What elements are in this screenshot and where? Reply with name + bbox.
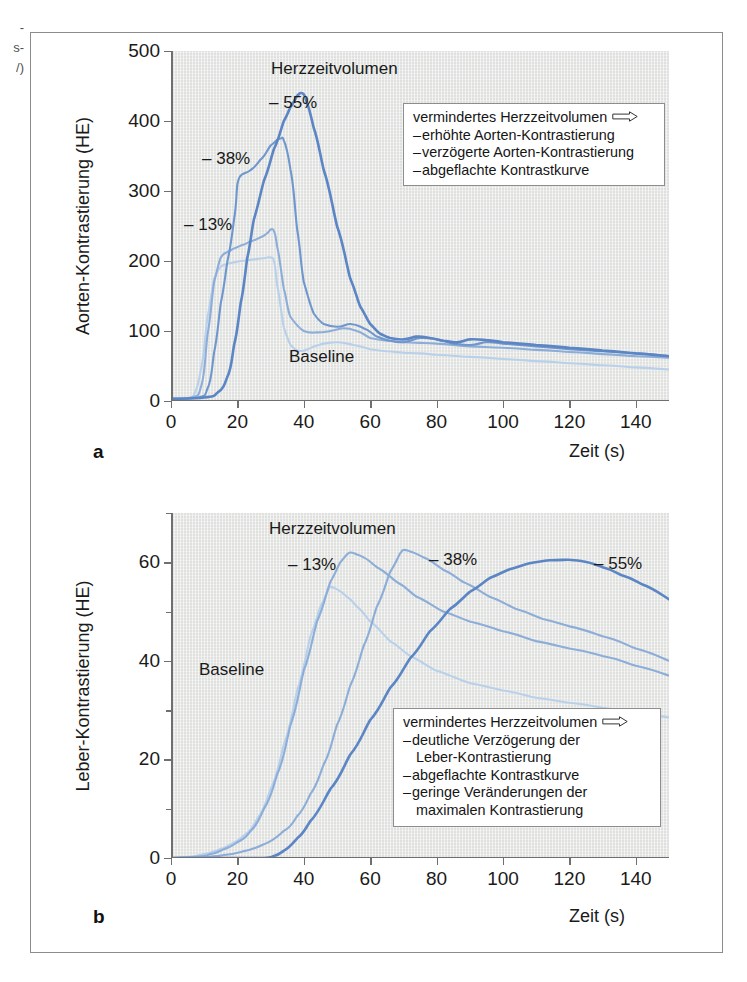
y-tick [164,331,171,332]
panel-letter-b: b [93,906,105,928]
legend-item-a-1: – erhöhte Aorten-Kontrastierung [413,127,655,145]
legend-heading-a: vermindertes Herzzeitvolumen [413,109,655,127]
plot-area-b: 0204060020406080100120140 Herzzeitvolume… [171,513,669,858]
y-tick-minor [166,809,171,810]
curve-label-a-13: – 13% [184,215,232,235]
x-tick [437,401,438,408]
baseline-label-a: Baseline [289,347,354,367]
panel-b: Leber-Kontrastierung (HE) 02040600204060… [31,488,724,954]
x-tick [370,858,371,865]
y-tick [164,661,171,662]
legend-heading-text-a: vermindertes Herzzeitvolumen [413,109,607,127]
x-tick-label: 120 [554,411,586,433]
y-tick [164,51,171,52]
x-tick [237,401,238,408]
x-axis-line-b [171,857,669,859]
y-tick [164,562,171,563]
group-label-b: Herzzeitvolumen [269,519,396,539]
y-axis-line-b [171,513,173,858]
y-tick-minor [166,612,171,613]
y-tick [164,121,171,122]
x-tick-label: 0 [166,411,177,433]
y-tick [164,191,171,192]
x-tick [503,401,504,408]
x-tick-label: 40 [293,411,314,433]
legend-item-b-4: – geringe Veränderungen der [403,784,651,802]
x-tick-label: 140 [620,868,652,890]
legend-heading-b: vermindertes Herzzeitvolumen [403,714,651,732]
x-tick [370,401,371,408]
y-tick-label: 200 [128,250,160,272]
x-tick [237,858,238,865]
legend-item-a-2: – verzögerte Aorten-Kontrastierung [413,144,655,162]
x-axis-title-b: Zeit (s) [569,906,625,927]
margin-text-line-3: /) [0,58,24,78]
curve-label-b-13: – 13% [288,555,336,575]
plot-area-a: 0100200300400500020406080100120140 Herzz… [171,51,669,401]
baseline-label-b: Baseline [199,660,264,680]
legend-item-text: erhöhte Aorten-Kontrastierung [422,127,615,145]
x-tick [636,858,637,865]
y-tick-label: 400 [128,110,160,132]
legend-item-text: verzögerte Aorten-Kontrastierung [422,144,634,162]
legend-dash-icon: – [413,127,422,145]
legend-item-b-3: – abgeflachte Kontrastkurve [403,767,651,785]
x-tick [304,858,305,865]
right-arrow-icon [602,714,628,732]
legend-dash-icon: – [403,767,412,785]
x-tick-label: 140 [620,411,652,433]
y-tick-minor [166,513,171,514]
legend-dash-icon: – [403,732,412,750]
figure-frame: Aorten-Kontrastierung (HE) 0100200300400… [30,32,723,953]
legend-box-a: vermindertes Herzzeitvolumen – erhöhte A… [403,103,665,186]
y-tick [164,858,171,859]
x-tick-label: 20 [227,868,248,890]
x-tick [569,401,570,408]
legend-item-a-3: – abgeflachte Kontrastkurve [413,162,655,180]
x-tick-label: 0 [166,868,177,890]
x-tick [171,401,172,408]
x-tick-label: 100 [487,868,519,890]
x-tick [437,858,438,865]
x-tick [569,858,570,865]
x-tick [171,858,172,865]
x-tick-label: 80 [426,868,447,890]
legend-dash-icon: – [413,162,422,180]
legend-heading-text-b: vermindertes Herzzeitvolumen [403,714,597,732]
x-tick-label: 120 [554,868,586,890]
legend-item-text: abgeflachte Kontrastkurve [422,162,589,180]
x-tick-label: 100 [487,411,519,433]
curve-label-b-55: – 55% [594,554,642,574]
y-axis-title-a: Aorten-Kontrastierung (HE) [73,117,94,335]
curve-label-b-38: – 38% [429,550,477,570]
x-tick [503,858,504,865]
curve-label-a-38: – 38% [202,149,250,169]
y-tick [164,401,171,402]
legend-dash-icon: – [403,784,412,802]
margin-text-line-1: - [0,18,24,38]
x-tick [304,401,305,408]
x-tick [636,401,637,408]
legend-item-b-2: Leber-Kontrastierung [403,749,651,767]
panel-a: Aorten-Kontrastierung (HE) 0100200300400… [31,33,724,488]
y-tick [164,759,171,760]
y-axis-title-b: Leber-Kontrastierung (HE) [73,580,94,791]
x-tick-label: 60 [360,411,381,433]
right-arrow-icon [612,109,638,127]
y-tick-label: 20 [139,748,160,770]
page-margin-text: - s- /) [0,18,24,78]
y-axis-line-a [171,51,173,401]
panel-letter-a: a [93,441,104,463]
legend-item-text: abgeflachte Kontrastkurve [412,767,579,785]
x-tick-label: 80 [426,411,447,433]
x-tick-label: 40 [293,868,314,890]
x-tick-label: 20 [227,411,248,433]
legend-dash-icon: – [413,144,422,162]
x-axis-title-a: Zeit (s) [569,441,625,462]
y-tick-label: 500 [128,40,160,62]
legend-box-b: vermindertes Herzzeitvolumen – deutliche… [393,708,661,827]
y-tick-minor [166,710,171,711]
legend-item-b-1: – deutliche Verzögerung der [403,732,651,750]
group-label-a: Herzzeitvolumen [271,59,398,79]
legend-item-text: maximalen Kontrastierung [416,802,583,820]
